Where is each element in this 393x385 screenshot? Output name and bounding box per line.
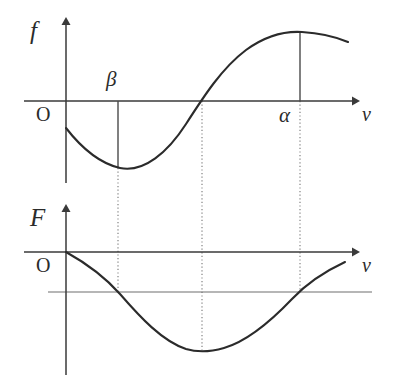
y-axis-arrowhead-bottom xyxy=(62,204,71,212)
x-axis-label-v-top: v xyxy=(362,104,371,124)
y-axis-label-F: F xyxy=(30,205,45,230)
origin-label-bottom: O xyxy=(36,255,50,275)
figure-container: f β α O v F O v xyxy=(0,0,393,385)
x-axis-arrowhead-bottom xyxy=(352,248,360,257)
tick-label-alpha: α xyxy=(279,105,290,126)
top-plot-f xyxy=(24,17,360,183)
bottom-plot-F xyxy=(24,204,372,375)
curve-F xyxy=(66,252,345,351)
y-axis-label-f: f xyxy=(30,18,37,43)
y-axis-arrowhead-top xyxy=(62,17,71,25)
x-axis-arrowhead-top xyxy=(352,97,360,106)
origin-label-top: O xyxy=(36,104,50,124)
x-axis-label-v-bottom: v xyxy=(362,255,371,275)
tick-label-beta: β xyxy=(106,69,116,90)
guide-lines-group xyxy=(118,101,300,351)
graph-canvas xyxy=(0,0,393,385)
